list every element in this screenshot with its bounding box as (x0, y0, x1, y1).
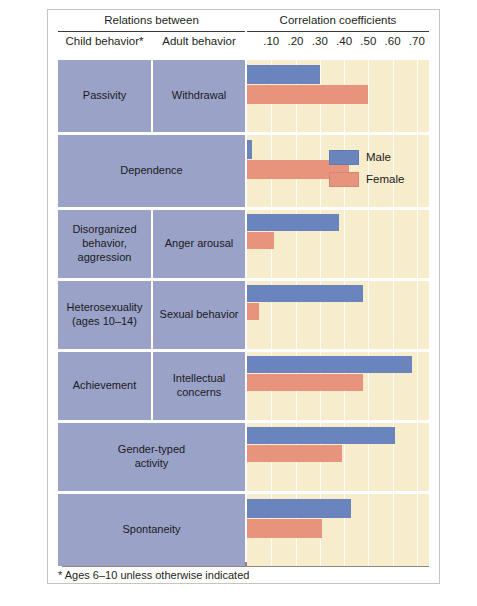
row-label-text: Heterosexuality(ages 10–14) (67, 301, 143, 329)
bar-female (247, 519, 322, 538)
gridline (393, 210, 394, 278)
table-row: Disorganizedbehavior,aggressionAnger aro… (58, 210, 429, 278)
gridline (368, 60, 369, 132)
bar-male (247, 65, 320, 84)
table-row: PassivityWithdrawal (58, 60, 429, 132)
header-group-correlation: Correlation coefficients (247, 14, 429, 26)
bar-female (247, 232, 274, 249)
row-label-text: Anger arousal (165, 237, 234, 251)
table-header: Relations between Correlation coefficien… (58, 14, 429, 60)
row-plot-area (247, 60, 429, 132)
row-label-text: Withdrawal (172, 89, 226, 103)
bar-female (247, 85, 368, 104)
bar-male (247, 214, 339, 231)
row-label-text: Gender-typedactivity (118, 443, 185, 471)
chart-legend: MaleFemale (329, 148, 425, 192)
row-label-merged: Dependence (58, 135, 245, 207)
column-header-adult-behavior: Adult behavior (153, 35, 245, 47)
header-rule-left (58, 31, 245, 32)
legend-swatch-female (329, 172, 359, 187)
table-body: PassivityWithdrawalDependenceDisorganize… (58, 60, 429, 562)
gridline (417, 494, 418, 566)
x-axis-tick-labels: .10.20.30.40.50.60.70 (247, 35, 429, 51)
legend-swatch-male (329, 150, 359, 165)
table-row: Heterosexuality(ages 10–14)Sexual behavi… (58, 281, 429, 349)
row-label-text: Passivity (83, 89, 126, 103)
gridline (393, 60, 394, 132)
gridline (368, 210, 369, 278)
footnote: * Ages 6–10 unless otherwise indicated (58, 569, 249, 581)
row-plot-area (247, 494, 429, 566)
header-rule-right (247, 31, 429, 32)
column-header-child-behavior: Child behavior* (58, 35, 151, 47)
row-plot-area (247, 352, 429, 420)
row-plot-area (247, 281, 429, 349)
row-label-adult-behavior: Withdrawal (153, 60, 245, 132)
gridline (417, 423, 418, 491)
figure-root: Relations between Correlation coefficien… (0, 0, 477, 606)
bar-male (247, 356, 412, 373)
row-label-text: Achievement (73, 379, 137, 393)
row-label-child-behavior: Disorganizedbehavior,aggression (58, 210, 151, 278)
row-plot-area (247, 423, 429, 491)
x-tick-70: .70 (402, 35, 432, 47)
legend-label: Female (366, 173, 404, 185)
gridline (368, 281, 369, 349)
row-label-text: Dependence (120, 164, 182, 178)
gridline (417, 210, 418, 278)
gridline (368, 494, 369, 566)
gridline (393, 281, 394, 349)
row-label-adult-behavior: Anger arousal (153, 210, 245, 278)
gridline (344, 210, 345, 278)
row-label-merged: Spontaneity (58, 494, 245, 566)
row-label-child-behavior: Achievement (58, 352, 151, 420)
gridline (417, 281, 418, 349)
row-label-merged: Gender-typedactivity (58, 423, 245, 491)
row-label-adult-behavior: Sexual behavior (153, 281, 245, 349)
gridline (417, 352, 418, 420)
bar-female (247, 303, 259, 320)
row-label-child-behavior: Passivity (58, 60, 151, 132)
row-label-text: Sexual behavior (160, 308, 239, 322)
gridline (393, 494, 394, 566)
row-label-text: Intellectualconcerns (173, 372, 226, 400)
legend-label: Male (366, 151, 391, 163)
row-label-child-behavior: Heterosexuality(ages 10–14) (58, 281, 151, 349)
bar-male (247, 499, 351, 518)
bar-female (247, 374, 363, 391)
legend-item-male: Male (329, 148, 425, 166)
row-label-adult-behavior: Intellectualconcerns (153, 352, 245, 420)
row-label-text: Spontaneity (122, 523, 180, 537)
legend-item-female: Female (329, 170, 425, 188)
gridline (417, 60, 418, 132)
table-row: AchievementIntellectualconcerns (58, 352, 429, 420)
bar-male (247, 285, 363, 302)
bar-male (247, 427, 395, 444)
bar-male (247, 140, 252, 159)
bar-female (247, 445, 342, 462)
table-row: Gender-typedactivity (58, 423, 429, 491)
row-label-text: Disorganizedbehavior,aggression (72, 223, 136, 264)
table-row: Spontaneity (58, 494, 429, 566)
header-group-relations: Relations between (58, 14, 245, 26)
row-plot-area (247, 210, 429, 278)
